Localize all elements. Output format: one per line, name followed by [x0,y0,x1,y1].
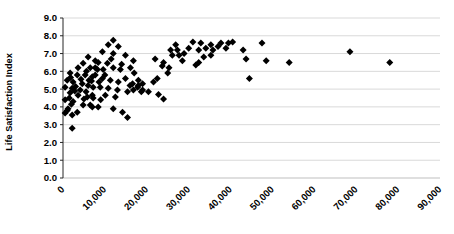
data-point [195,47,202,54]
data-point [124,114,131,121]
y-tick-label: 1.0 [44,155,57,166]
data-point [189,39,196,46]
data-point [122,52,129,59]
data-point [97,96,104,103]
data-point [174,47,181,54]
data-point [97,84,104,91]
y-tick-label: 9.0 [44,12,57,23]
data-point [152,55,159,62]
x-tick-label: 20,000 [122,184,151,213]
data-point [202,45,209,52]
data-point [258,39,265,46]
data-point [131,70,138,77]
data-point [130,57,137,64]
data-point [386,59,393,66]
data-point [75,64,82,71]
data-point [80,60,87,67]
x-tick-label: 90,000 [415,184,444,213]
y-tick-label: 5.0 [44,84,57,95]
data-point [117,66,124,73]
data-point [240,47,247,54]
data-point [200,54,207,61]
data-point [263,57,270,64]
data-point [155,91,162,98]
data-point [118,61,125,68]
gridlines [63,18,440,178]
data-point [165,64,172,71]
data-point [286,59,293,66]
data-point [172,41,179,48]
x-tick-label: 0 [55,184,67,196]
data-point [107,77,114,84]
data-points [62,37,394,132]
data-point [95,103,102,110]
data-point [100,66,107,73]
data-point [122,75,129,82]
y-tick-label: 2.0 [44,137,57,148]
data-point [112,94,119,101]
data-point [115,43,122,50]
data-point [346,48,353,55]
data-point [85,54,92,61]
x-tick-label: 10,000 [80,184,109,213]
y-axis-title: Life Satisfaction Index [4,52,14,150]
data-point [119,109,126,116]
data-point [115,79,122,86]
x-tick-label: 70,000 [331,184,360,213]
y-tick-label: 3.0 [44,119,57,130]
x-tick-label: 60,000 [289,184,318,213]
data-point [169,52,176,59]
scatter-plot-canvas: 0.01.02.03.04.05.06.07.08.09.0 010,00020… [0,0,454,234]
data-point [246,75,253,82]
data-point [160,95,167,102]
x-axis-tick-labels: 010,00020,00030,00040,00050,00060,00070,… [55,184,444,213]
y-axis-tick-labels: 0.01.02.03.04.05.06.07.08.09.0 [44,12,57,183]
data-point [167,47,174,54]
y-tick-label: 6.0 [44,66,57,77]
data-point [110,64,117,71]
x-tick-label: 40,000 [205,184,234,213]
data-point [197,39,204,46]
data-point [243,55,250,62]
data-point [185,45,192,52]
data-point [127,64,134,71]
data-point [99,48,106,55]
scatter-plot: 0.01.02.03.04.05.06.07.08.09.0 010,00020… [0,0,454,234]
data-point [114,87,121,94]
y-tick-label: 4.0 [44,101,57,112]
y-tick-label: 7.0 [44,48,57,59]
data-point [105,85,112,92]
data-point [179,57,186,64]
data-point [110,105,117,112]
x-tick-label: 80,000 [373,184,402,213]
data-point [164,70,171,77]
data-point [102,92,109,99]
x-tick-label: 50,000 [247,184,276,213]
data-point [69,125,76,132]
data-point [110,37,117,44]
data-point [105,41,112,48]
x-tick-label: 30,000 [164,184,193,213]
y-tick-label: 0.0 [44,172,57,183]
axes [60,18,63,178]
y-tick-label: 8.0 [44,30,57,41]
data-point [80,102,87,109]
